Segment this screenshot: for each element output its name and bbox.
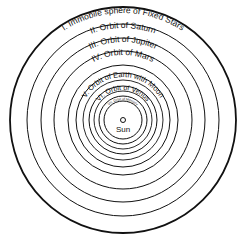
- sun-icon: [121, 118, 126, 123]
- copernican-diagram: I. Immobile sphere of Fixed Stars II. Or…: [0, 0, 241, 240]
- inner-ring-1: [68, 65, 178, 175]
- moon-orbit-ring: [83, 80, 163, 160]
- label-mars: IV. Orbit of Mars: [90, 47, 156, 64]
- orbit-ring-7: [99, 96, 147, 144]
- orbit-ring-3: [41, 38, 205, 202]
- label-saturn: II. Orbit of Saturn: [89, 20, 158, 36]
- sun-label: Sun: [116, 125, 130, 134]
